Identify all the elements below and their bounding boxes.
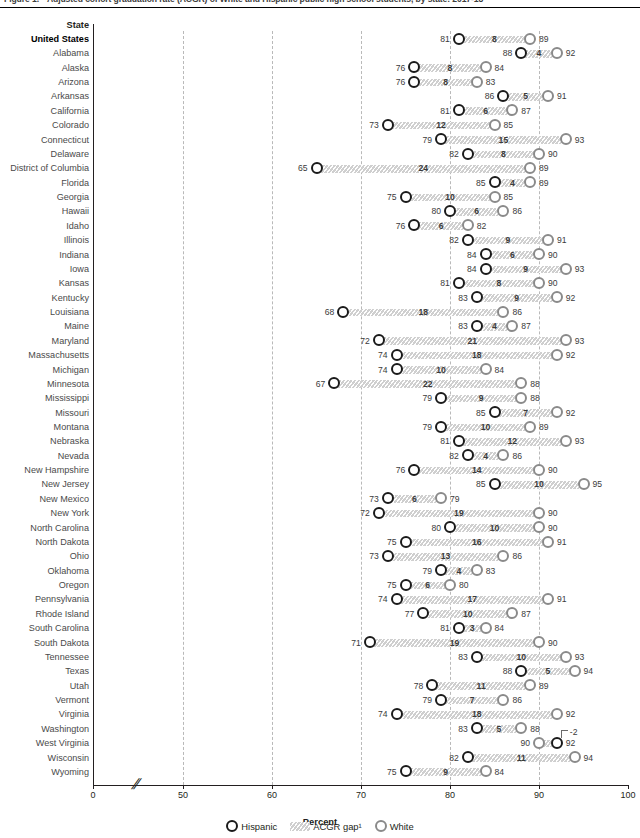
acgr-gap-value-label: 8 — [414, 61, 485, 75]
white-value-label: 88 — [530, 722, 540, 736]
white-value-label: 92 — [566, 348, 576, 362]
acgr-gap-value-label: 7 — [495, 406, 557, 420]
chart-row: Indiana84906 — [0, 248, 640, 262]
column-header-state: State — [0, 20, 89, 30]
chart-row: United States81898 — [0, 32, 640, 46]
row-label-state: Ohio — [0, 549, 89, 563]
white-value-label: 83 — [486, 75, 496, 89]
chart-row: North Carolina809010 — [0, 521, 640, 535]
white-value-label: 85 — [504, 190, 514, 204]
row-label-state: Arkansas — [0, 89, 89, 103]
hispanic-value-label: 75 — [360, 765, 397, 779]
white-circle-icon — [533, 737, 545, 749]
acgr-gap-value-label: 10 — [441, 420, 530, 434]
white-value-label: 92 — [566, 707, 576, 721]
acgr-gap-value-label: 6 — [414, 219, 467, 233]
white-value-label: 90 — [493, 736, 530, 750]
row-label-state: Idaho — [0, 219, 89, 233]
hispanic-value-label: 71 — [324, 636, 361, 650]
white-value-label: 95 — [593, 477, 603, 491]
chart-row: West Virginia9092-2 — [0, 736, 640, 750]
white-value-label: 89 — [539, 679, 549, 693]
hispanic-value-label: 81 — [413, 276, 450, 290]
white-value-label: 92 — [566, 291, 576, 305]
hispanic-value-label: 76 — [368, 75, 405, 89]
row-label-state: New Hampshire — [0, 463, 89, 477]
acgr-gap-value-label: 6 — [406, 578, 451, 592]
acgr-gap-value-label: 8 — [414, 75, 476, 89]
x-tick-label-70: 70 — [356, 790, 366, 800]
white-value-label: 94 — [584, 664, 594, 678]
acgr-gap-value-label: 6 — [459, 104, 512, 118]
row-label-state: Utah — [0, 679, 89, 693]
x-tick-label-80: 80 — [445, 790, 455, 800]
hatched-bar-swatch — [290, 822, 310, 831]
white-value-label: 84 — [495, 765, 505, 779]
row-label-state: Wyoming — [0, 765, 89, 779]
hispanic-value-label: 81 — [413, 32, 450, 46]
row-label-state: Pennsylvania — [0, 592, 89, 606]
hispanic-value-label: 73 — [342, 118, 379, 132]
hispanic-value-label: 92 — [566, 736, 576, 750]
chart-row: New Jersey859510 — [0, 477, 640, 491]
white-value-label: 86 — [512, 449, 522, 463]
hispanic-value-label: 82 — [422, 147, 459, 161]
white-value-label: 79 — [450, 492, 460, 506]
row-label-state: Indiana — [0, 248, 89, 262]
acgr-gap-value-label: 10 — [406, 190, 495, 204]
white-value-label: 91 — [557, 535, 567, 549]
white-value-label: 88 — [530, 391, 540, 405]
white-value-label: 89 — [539, 32, 549, 46]
white-circle-icon — [375, 820, 387, 832]
chart-row: Texas88945 — [0, 664, 640, 678]
acgr-gap-value-label: 19 — [370, 636, 539, 650]
x-tick-0 — [93, 785, 94, 789]
chart-row: Montana798910 — [0, 420, 640, 434]
acgr-gap-value-label: 6 — [486, 248, 539, 262]
acgr-gap-value-label: 6 — [388, 492, 441, 506]
hispanic-value-label: 73 — [342, 492, 379, 506]
chart-row: Alabama88924 — [0, 46, 640, 60]
chart-row: Maryland729321 — [0, 334, 640, 348]
chart-row: Washington83885 — [0, 722, 640, 736]
row-label-state: California — [0, 104, 89, 118]
white-value-label: 86 — [512, 549, 522, 563]
hispanic-value-label: 65 — [271, 161, 308, 175]
white-value-label: 90 — [548, 521, 558, 535]
chart-row: New Hampshire769014 — [0, 463, 640, 477]
acgr-gap-value-label: 10 — [477, 650, 566, 664]
hispanic-value-label: 76 — [368, 463, 405, 477]
hispanic-circle-icon — [226, 820, 238, 832]
figure-number: Figure 1. — [4, 0, 39, 4]
row-label-state: Nebraska — [0, 434, 89, 448]
row-label-state: Illinois — [0, 233, 89, 247]
acgr-gap-value-label: 8 — [468, 147, 539, 161]
x-tick-label-60: 60 — [267, 790, 277, 800]
chart-row: Virginia749218 — [0, 707, 640, 721]
x-tick-60 — [272, 785, 273, 789]
legend-item: White — [375, 820, 414, 832]
hispanic-value-label: 84 — [440, 262, 477, 276]
legend-label: ACGR gap¹ — [313, 821, 361, 832]
hispanic-value-label: 81 — [413, 621, 450, 635]
row-label-state: Rhode Island — [0, 607, 89, 621]
acgr-gap-value-label: 22 — [334, 377, 521, 391]
white-value-label: 89 — [539, 420, 549, 434]
x-tick-100 — [628, 785, 629, 789]
row-label-state: South Carolina — [0, 621, 89, 635]
row-label-state: Montana — [0, 420, 89, 434]
row-label-state: West Virginia — [0, 736, 89, 750]
row-label-state: Virginia — [0, 707, 89, 721]
chart-row: Ohio738613 — [0, 549, 640, 563]
row-label-state: New Mexico — [0, 492, 89, 506]
chart-row: Alaska76848 — [0, 61, 640, 75]
chart-row: Louisiana688618 — [0, 305, 640, 319]
chart-legend: HispanicACGR gap¹White — [0, 820, 640, 832]
hispanic-value-label: 86 — [457, 89, 494, 103]
row-label-state: Washington — [0, 722, 89, 736]
hispanic-value-label: 81 — [413, 434, 450, 448]
white-value-label: 90 — [548, 463, 558, 477]
hispanic-value-label: 79 — [395, 693, 432, 707]
white-value-label: 93 — [575, 262, 585, 276]
x-tick-50 — [183, 785, 184, 789]
